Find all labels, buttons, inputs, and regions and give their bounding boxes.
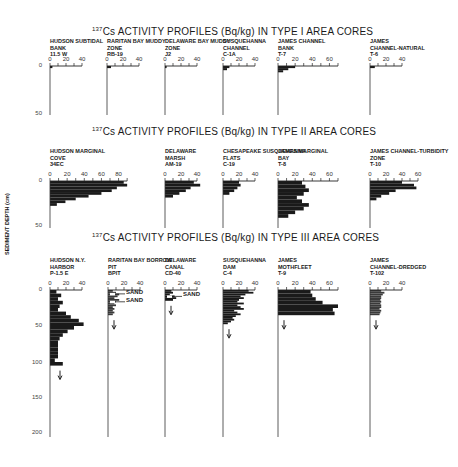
activity-bar <box>50 333 63 337</box>
depth-tick-label: 200 <box>20 429 42 435</box>
svg-text:0: 0 <box>221 280 225 286</box>
activity-bar <box>370 295 381 297</box>
svg-text:40: 40 <box>309 280 316 286</box>
activity-bar <box>50 337 60 341</box>
activity-bar <box>370 187 416 190</box>
activity-bar <box>165 294 170 296</box>
svg-text:20: 20 <box>121 280 128 286</box>
svg-text:20: 20 <box>63 56 70 62</box>
activity-bar <box>50 192 101 195</box>
activity-bar <box>223 312 237 314</box>
activity-bar <box>50 200 65 203</box>
activity-bar <box>223 304 237 306</box>
activity-bar <box>223 313 241 315</box>
core-label: RARITAN BAY MUDDY ZONE RB-19 <box>107 38 166 58</box>
profile-plot: 02040 <box>165 56 207 125</box>
svg-text:80: 80 <box>115 171 122 177</box>
activity-bar <box>370 312 380 314</box>
core-label: JAMES CHANNEL-TURBIDITY ZONE T-10 <box>370 148 449 168</box>
activity-bar <box>50 315 71 319</box>
svg-text:20: 20 <box>383 56 390 62</box>
profile-plot: 02040 <box>165 171 207 238</box>
activity-bar <box>50 304 60 308</box>
svg-text:0: 0 <box>163 171 167 177</box>
activity-bar <box>278 294 312 298</box>
svg-text:0: 0 <box>276 280 280 286</box>
activity-bar <box>370 303 380 305</box>
profile-plot: 02040 <box>50 56 92 125</box>
activity-bar <box>50 203 57 206</box>
activity-bar <box>223 187 237 190</box>
activity-bar <box>50 294 61 298</box>
activity-bar <box>223 303 244 305</box>
activity-bar <box>223 189 234 192</box>
activity-bar <box>278 214 288 218</box>
depth-tick-label: 50 <box>20 322 42 328</box>
svg-text:40: 40 <box>81 171 88 177</box>
svg-text:20: 20 <box>64 171 71 177</box>
activity-bar <box>223 301 237 303</box>
activity-bar <box>223 292 253 294</box>
svg-text:40: 40 <box>399 56 406 62</box>
activity-bar <box>278 210 295 214</box>
activity-bar <box>223 308 244 310</box>
activity-bar <box>165 192 179 195</box>
activity-bar <box>370 292 384 294</box>
activity-bar <box>278 297 316 301</box>
activity-bar <box>165 187 191 190</box>
svg-text:60: 60 <box>98 171 105 177</box>
activity-bar <box>278 70 283 72</box>
activity-bar <box>223 321 231 323</box>
activity-bar <box>370 189 396 192</box>
svg-text:40: 40 <box>136 56 143 62</box>
depth-tick-label: 0 <box>20 177 42 183</box>
svg-text:40: 40 <box>194 171 201 177</box>
activity-bar <box>50 187 117 190</box>
activity-bar <box>223 297 244 299</box>
core-label: SUSQUEHANNA DAM C-4 <box>223 257 266 277</box>
activity-bar <box>108 312 114 314</box>
svg-text:0: 0 <box>368 171 372 177</box>
activity-bar <box>370 195 381 198</box>
activity-bar <box>278 196 297 200</box>
profile-plot: 0204060 <box>278 280 348 447</box>
core-label: HUDSON SUBTIDAL BANK 11.5 W <box>50 38 103 58</box>
activity-bar <box>50 198 76 201</box>
activity-bar <box>165 292 173 294</box>
svg-text:0: 0 <box>163 280 167 286</box>
activity-bar <box>370 304 381 306</box>
activity-bar <box>108 304 116 306</box>
core-label: JAMES MARGINAL BAY T-8 <box>278 148 328 168</box>
svg-text:40: 40 <box>252 280 259 286</box>
svg-text:20: 20 <box>236 56 243 62</box>
activity-bar <box>278 68 288 70</box>
activity-bar <box>165 189 186 192</box>
activity-bar <box>278 181 302 185</box>
activity-bar <box>165 195 173 198</box>
activity-bar <box>278 185 305 189</box>
activity-bar <box>370 294 383 296</box>
activity-bar <box>223 315 236 317</box>
activity-bar <box>278 308 333 312</box>
svg-text:20: 20 <box>292 56 299 62</box>
activity-bar <box>370 192 389 195</box>
activity-bar <box>50 330 68 334</box>
activity-bar <box>50 189 112 192</box>
svg-text:0: 0 <box>276 56 280 62</box>
profile-plot: 02040 <box>223 280 265 447</box>
activity-bar <box>370 308 380 310</box>
activity-bar <box>50 312 66 316</box>
activity-bar <box>108 299 119 301</box>
activity-bar <box>165 184 200 187</box>
svg-text:20: 20 <box>120 56 127 62</box>
activity-bar <box>370 299 380 301</box>
svg-text:0: 0 <box>48 56 52 62</box>
profile-plot: 0204060 <box>278 171 348 238</box>
depth-tick-label: 50 <box>20 222 42 228</box>
activity-bar <box>108 310 113 312</box>
svg-text:20: 20 <box>292 280 299 286</box>
core-label: DELAWARE CANAL CD-40 <box>165 257 196 277</box>
activity-bar <box>108 306 113 308</box>
core-label: JAMES CHANNEL-DREDGED T-102 <box>370 257 426 277</box>
activity-bar <box>108 297 114 299</box>
